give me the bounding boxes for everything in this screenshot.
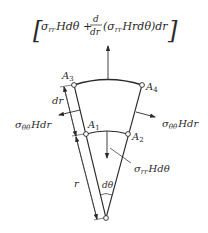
r-label: r (74, 178, 80, 189)
point-A2 (126, 132, 131, 137)
stress-element-diagram: [ σrrHdθ + d dr (σrrHrdθ)dr ] A3 A4 A1 A… (0, 0, 208, 233)
point-A3 (72, 83, 77, 88)
dtheta-angle: dθ (100, 180, 114, 195)
svg-text:dr: dr (90, 27, 101, 37)
right-hoop-force-label: σθθHdr (162, 118, 199, 131)
label-A1: A1 (87, 119, 100, 132)
left-hoop-force-label: σθθHdr (15, 119, 52, 132)
svg-text:(σrrHrdθ)dr: (σrrHrdθ)dr (103, 20, 168, 34)
label-A4: A4 (145, 81, 158, 94)
top-force-expression: [ σrrHdθ + d dr (σrrHrdθ)dr ] (33, 14, 178, 44)
label-A3: A3 (61, 70, 74, 83)
point-A1 (84, 132, 89, 137)
element-outline (74, 80, 142, 219)
svg-text:σrrHdθ +: σrrHdθ + (41, 20, 92, 34)
right-hoop-force-arrow (136, 112, 155, 117)
bottom-force-label: σrrHdθ (134, 163, 170, 176)
svg-text:d: d (93, 14, 99, 24)
label-A2: A2 (131, 131, 144, 144)
point-A4 (140, 83, 145, 88)
dr-label: dr (52, 95, 64, 106)
bracket-right: ] (167, 16, 178, 44)
point-origin (104, 216, 109, 221)
node-points (72, 83, 145, 221)
dtheta-label: dθ (102, 180, 114, 190)
